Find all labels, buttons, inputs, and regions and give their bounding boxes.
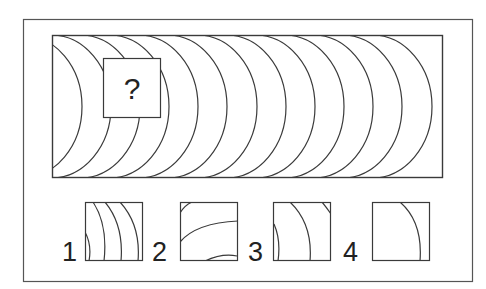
pattern-arc [313, 35, 373, 178]
option-label: 4 [343, 237, 358, 267]
option-label: 1 [62, 237, 77, 267]
puzzle-canvas: ? 1 2 3 4 [0, 0, 486, 289]
question-mark: ? [124, 72, 141, 105]
option-label: 3 [248, 237, 263, 267]
option-2[interactable]: 2 [152, 202, 238, 267]
option-4[interactable]: 4 [343, 202, 430, 267]
pattern-arc [51, 35, 111, 178]
missing-piece-box: ? [104, 59, 161, 118]
option-label: 2 [152, 237, 167, 267]
pattern-arc [167, 35, 227, 178]
pattern-area [22, 35, 432, 178]
pattern-arc [255, 35, 315, 178]
option-1[interactable]: 1 [62, 202, 143, 267]
pattern-arc [226, 35, 286, 178]
option-3[interactable]: 3 [248, 202, 331, 267]
pattern-arc [284, 35, 344, 178]
pattern-arc [342, 35, 402, 178]
